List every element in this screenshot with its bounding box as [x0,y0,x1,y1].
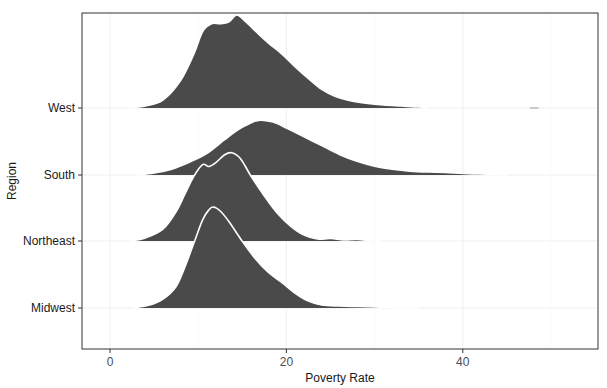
x-axis-title: Poverty Rate [305,371,375,385]
x-axis: 02040 [107,349,470,369]
y-tick-label-west: West [48,101,76,115]
ridge-fill-south [136,120,506,175]
grid-lines [82,13,598,349]
ridge-fill-west [128,15,428,108]
x-tick-label: 20 [280,355,294,369]
y-axis-title: Region [5,162,19,200]
ridge-west [128,15,428,108]
ridges [128,15,539,308]
panel-border [82,13,598,349]
y-tick-label-south: South [44,168,75,182]
chart-canvas: WestSouthNortheastMidwest 02040 Poverty … [0,0,607,388]
x-tick-label: 0 [107,355,114,369]
y-tick-label-midwest: Midwest [31,301,76,315]
ridgeline-chart: WestSouthNortheastMidwest 02040 Poverty … [0,0,607,388]
ridge-south [136,120,506,175]
x-tick-label: 40 [456,355,470,369]
y-tick-label-northeast: Northeast [23,234,76,248]
y-axis: WestSouthNortheastMidwest [23,101,82,315]
